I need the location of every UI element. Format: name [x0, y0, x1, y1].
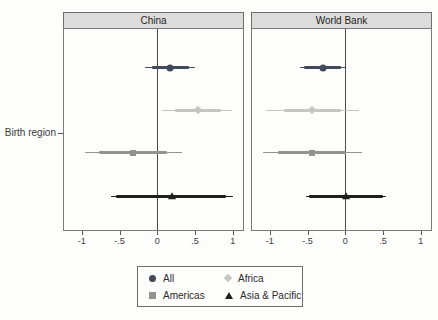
y-axis-label: Birth region	[0, 127, 56, 138]
x-axis-tick	[120, 231, 121, 235]
panel-china-plot-area	[63, 28, 244, 231]
point-estimate-americas	[130, 150, 136, 156]
legend-label-africa: Africa	[238, 273, 264, 284]
panel-world-bank-plot-area	[251, 28, 432, 231]
point-estimate-americas	[309, 150, 315, 156]
point-estimate-all	[166, 64, 173, 71]
point-estimate-all	[319, 64, 326, 71]
zero-reference-line	[157, 29, 158, 230]
all-circle-icon	[149, 275, 156, 282]
x-axis-tick-label: -.5	[114, 236, 125, 246]
x-axis-tick-label: 0	[155, 236, 160, 246]
x-axis-tick-label: 0	[343, 236, 348, 246]
legend-label-all: All	[163, 273, 174, 284]
x-axis-tick	[195, 231, 196, 235]
asia-pacific-triangle-icon	[225, 292, 233, 299]
panel-china-x-axis: -1-.50.51	[63, 231, 244, 253]
legend-item-asia-pacific: Asia & Pacific	[225, 287, 302, 303]
point-estimate-africa	[193, 106, 201, 114]
x-axis-tick	[82, 231, 83, 235]
point-estimate-asia-pacific	[342, 193, 350, 200]
x-axis-tick	[421, 231, 422, 235]
coefficient-plot-figure: Birth region China -1-.50.51 World Bank …	[0, 0, 438, 320]
panel-world-bank: World Bank -1-.50.51	[251, 12, 432, 253]
x-axis-tick-label: .5	[379, 236, 387, 246]
x-axis-tick-label: 1	[230, 236, 235, 246]
x-axis-tick	[233, 231, 234, 235]
x-axis-tick	[383, 231, 384, 235]
panel-china: China -1-.50.51	[63, 12, 244, 253]
x-axis-tick	[157, 231, 158, 235]
panel-world-bank-title: World Bank	[316, 15, 368, 26]
americas-square-icon	[149, 292, 156, 299]
x-axis-tick	[345, 231, 346, 235]
panel-china-header: China	[63, 12, 244, 29]
legend-item-africa: Africa	[225, 270, 302, 286]
legend: All Africa Americas Asia & Pacific	[137, 266, 303, 307]
legend-label-asia-pacific: Asia & Pacific	[240, 290, 301, 301]
legend-item-americas: Americas	[149, 287, 225, 303]
x-axis-tick	[308, 231, 309, 235]
zero-reference-line	[345, 29, 346, 230]
panel-world-bank-header: World Bank	[251, 12, 432, 29]
panel-china-title: China	[140, 15, 166, 26]
point-estimate-africa	[308, 106, 316, 114]
x-axis-tick-label: -1	[78, 236, 86, 246]
x-axis-tick-label: -.5	[302, 236, 313, 246]
x-axis-tick-label: -1	[266, 236, 274, 246]
legend-item-all: All	[149, 270, 225, 286]
africa-diamond-icon	[224, 274, 232, 282]
x-axis-tick	[270, 231, 271, 235]
x-axis-tick-label: 1	[418, 236, 423, 246]
x-axis-tick-label: .5	[191, 236, 199, 246]
panel-world-bank-x-axis: -1-.50.51	[251, 231, 432, 253]
point-estimate-asia-pacific	[168, 193, 176, 200]
legend-label-americas: Americas	[163, 290, 205, 301]
